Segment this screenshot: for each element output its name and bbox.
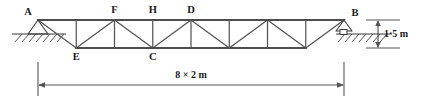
node-label-H: H xyxy=(149,4,157,15)
span-dimension-group: 8 × 2 m xyxy=(38,62,344,96)
truss-figure: A B F H D E C 1·5 m 8 × 2 m xyxy=(0,0,427,104)
pin-support-A xyxy=(28,20,48,34)
height-dimension-label: 1·5 m xyxy=(384,28,409,39)
node-label-D: D xyxy=(187,4,195,15)
diagonal-member-3 xyxy=(115,20,153,48)
diagonal-member-5 xyxy=(191,20,229,48)
roller-support-B xyxy=(336,20,352,35)
span-dimension-label: 8 × 2 m xyxy=(175,69,207,80)
node-label-A: A xyxy=(24,6,32,17)
node-label-F: F xyxy=(111,4,117,15)
truss-diagram-svg: A B F H D E C 1·5 m 8 × 2 m xyxy=(0,0,427,104)
diagonal-member-7 xyxy=(268,20,306,48)
node-label-C: C xyxy=(149,51,157,62)
span-arrowhead-right xyxy=(337,82,344,87)
height-arrowhead-up xyxy=(375,20,381,26)
node-label-B: B xyxy=(351,7,358,18)
pin-support-triangle xyxy=(28,20,48,34)
diagonal-member-2 xyxy=(76,20,114,48)
diagonal-member-4 xyxy=(153,20,191,48)
right-ground-hatching xyxy=(338,34,387,42)
height-arrowhead-down xyxy=(375,42,381,48)
span-arrowhead-left xyxy=(38,82,45,87)
roller-bearing-box xyxy=(340,30,347,35)
left-ground-hatching xyxy=(15,34,64,42)
node-label-E: E xyxy=(73,51,80,62)
diagonal-member-6 xyxy=(229,20,267,48)
web-verticals xyxy=(76,20,306,48)
